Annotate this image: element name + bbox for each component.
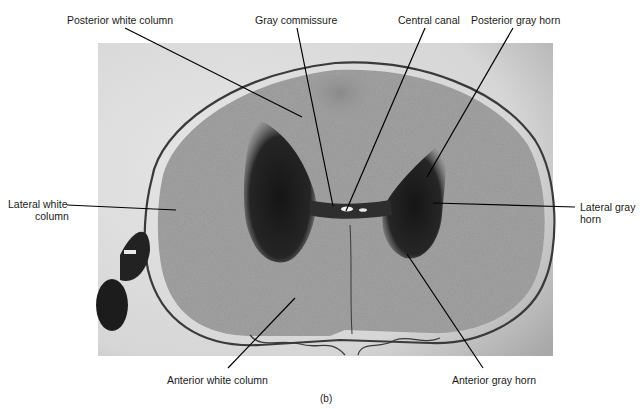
- label-anterior-gray-horn: Anterior gray horn: [452, 374, 536, 386]
- figure-caption: (b): [320, 393, 332, 404]
- label-lateral-gray-horn: Lateral gray horn: [580, 201, 635, 225]
- label-posterior-white-column: Posterior white column: [67, 14, 173, 26]
- spinal-cord-figure: Posterior white column Gray commissure C…: [0, 0, 643, 409]
- micrograph: [0, 0, 643, 409]
- label-posterior-gray-horn: Posterior gray horn: [471, 14, 560, 26]
- dorsal-root-ganglion: [96, 279, 128, 331]
- label-lateral-gray-horn-line1: Lateral gray: [580, 201, 635, 213]
- label-lateral-gray-horn-line2: horn: [580, 213, 635, 225]
- label-lateral-white-column-line2: column: [8, 210, 69, 222]
- label-lateral-white-column: Lateral white column: [8, 198, 69, 222]
- label-anterior-white-column: Anterior white column: [167, 374, 268, 386]
- label-gray-commissure: Gray commissure: [255, 14, 337, 26]
- label-lateral-white-column-line1: Lateral white: [8, 198, 69, 210]
- label-central-canal: Central canal: [398, 14, 460, 26]
